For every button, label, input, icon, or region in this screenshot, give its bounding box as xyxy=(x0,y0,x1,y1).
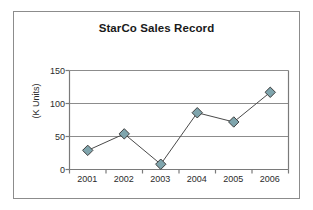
gridlines xyxy=(70,71,289,170)
data-point-2005 xyxy=(229,117,239,127)
data-point-2001 xyxy=(83,145,93,155)
plot-area xyxy=(0,0,313,210)
data-point-2006 xyxy=(265,87,275,97)
axis-lines xyxy=(70,71,289,170)
data-point-2004 xyxy=(192,108,202,118)
axis-ticks xyxy=(66,71,289,174)
chart-figure: StarCo Sales Record (K Units) 050100150 … xyxy=(0,0,313,210)
data-point-markers xyxy=(83,87,276,169)
